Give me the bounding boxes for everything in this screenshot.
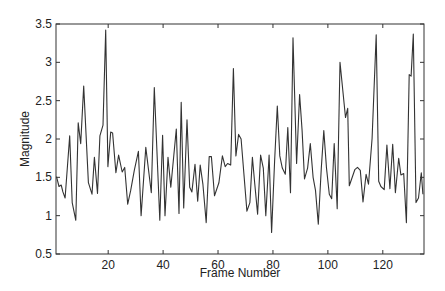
plot-frame bbox=[56, 24, 424, 254]
x-tick-label: 100 bbox=[318, 258, 338, 272]
y-tick-label: 3.5 bbox=[35, 17, 52, 31]
y-tick-label: 1.5 bbox=[35, 170, 52, 184]
y-axis-label: Magnitude bbox=[18, 111, 32, 167]
y-tick-label: 2.5 bbox=[35, 94, 52, 108]
x-tick-label: 40 bbox=[156, 258, 170, 272]
y-tick-label: 2 bbox=[45, 132, 52, 146]
y-tick-label: 0.5 bbox=[35, 247, 52, 261]
y-tick-label: 1 bbox=[45, 209, 52, 223]
y-tick-label: 3 bbox=[45, 55, 52, 69]
plot-area: 0.511.522.533.5 20406080100120 bbox=[35, 17, 424, 272]
magnitude-line-chart: 0.511.522.533.5 20406080100120 Frame Num… bbox=[0, 0, 445, 291]
x-tick-label: 20 bbox=[101, 258, 115, 272]
x-axis-label: Frame Number bbox=[200, 266, 281, 280]
x-tick-label: 120 bbox=[373, 258, 393, 272]
